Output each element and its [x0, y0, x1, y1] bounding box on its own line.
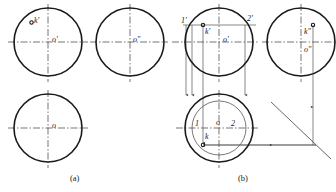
panel-b-label-k: k — [205, 133, 209, 141]
panel-b-label-o-prime: o' — [223, 36, 229, 44]
panel-a-label-o-dprime: o" — [133, 36, 140, 44]
panel-a-k-prime-marker — [30, 21, 33, 24]
panel-b-label-k-prime: k' — [205, 28, 210, 36]
mitre-line-45deg — [271, 102, 331, 159]
panel-b-label-o-dprime: o" — [304, 46, 311, 54]
panel-b — [172, 4, 336, 168]
panel-a-front-view-centerlines — [8, 4, 88, 82]
panel-b-label-2: 2 — [231, 120, 235, 128]
panel-b-caption: (b) — [238, 173, 248, 183]
panel-a-label-k-prime: k' — [34, 17, 39, 25]
figure-canvas: k' o' o" o (a) 1' 2' k' k" o' o" 1 o 2 k… — [0, 0, 336, 192]
panel-a-label-o-prime: o' — [52, 36, 58, 44]
panel-b-label-k-dprime: k" — [304, 28, 311, 36]
panel-a-label-o: o — [52, 122, 56, 130]
technical-drawing-svg — [0, 0, 336, 192]
panel-b-label-2-prime: 2' — [247, 15, 253, 23]
panel-b-label-o: o — [216, 119, 220, 127]
panel-b-label-1-prime: 1' — [181, 17, 187, 25]
panel-a — [8, 4, 168, 168]
panel-b-top-view-centerlines — [176, 90, 260, 168]
panel-b-label-1: 1 — [195, 120, 199, 128]
panel-a-top-view-centerlines — [8, 90, 88, 168]
panel-a-caption: (a) — [70, 173, 79, 183]
panel-b-side-view-centerlines — [262, 4, 336, 82]
panel-a-side-view-centerlines — [90, 4, 168, 82]
